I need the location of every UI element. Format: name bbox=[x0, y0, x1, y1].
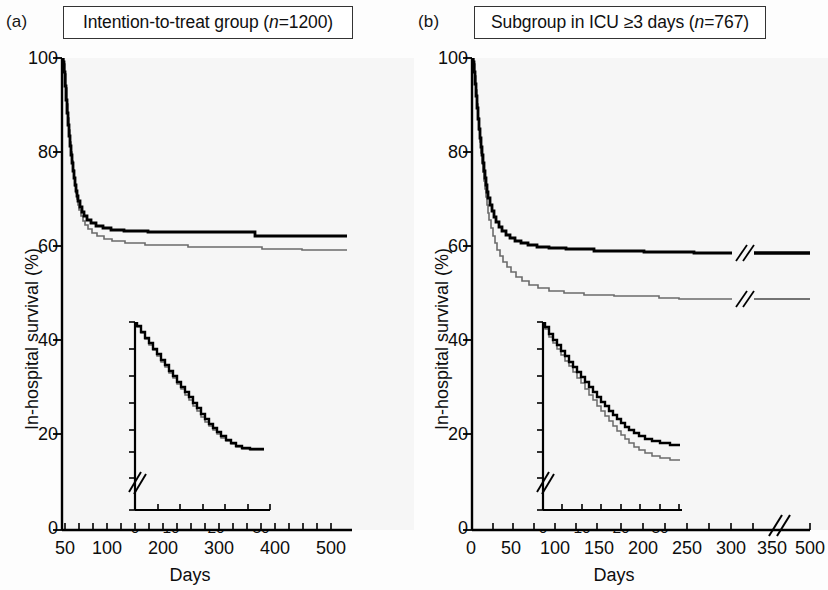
panel-b: (b) Subgroup in ICU ≥3 days (n=767) In-h… bbox=[414, 0, 828, 590]
panel-a: (a) Intention-to-treat group (n=1200) In… bbox=[0, 0, 414, 590]
panel-b-plot-background bbox=[472, 58, 828, 530]
figure-container: (a) Intention-to-treat group (n=1200) In… bbox=[0, 0, 828, 590]
panel-a-plot-background bbox=[62, 58, 414, 530]
panel-b-plot-svg bbox=[414, 0, 828, 590]
panel-a-plot-svg bbox=[0, 0, 414, 590]
